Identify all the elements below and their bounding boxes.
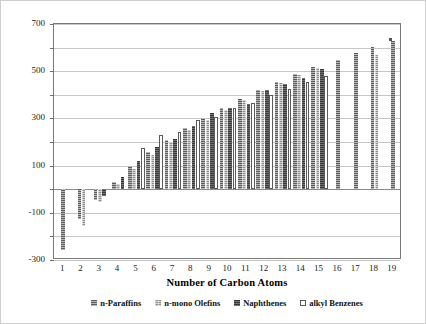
bar-group	[54, 24, 72, 258]
bar	[78, 189, 82, 219]
bar-group	[127, 24, 145, 258]
bar	[251, 103, 255, 190]
legend-label: n-mono Olefins	[164, 298, 220, 308]
bar-group	[109, 24, 127, 258]
x-tick-label: 8	[180, 263, 200, 273]
bar	[283, 84, 287, 189]
legend-swatch-icon	[300, 300, 306, 306]
bar-group	[274, 24, 292, 258]
x-tick-label: 14	[290, 263, 310, 273]
legend-swatch-icon	[155, 300, 161, 306]
bar	[183, 128, 187, 189]
bar	[256, 90, 260, 189]
y-tick-label: 100	[5, 160, 45, 170]
x-tick-label: 10	[217, 263, 237, 273]
y-tick-label: 500	[5, 65, 45, 75]
bar-group	[365, 24, 383, 258]
bar	[265, 90, 269, 189]
y-tick-label: -100	[5, 207, 45, 217]
bar	[320, 69, 324, 189]
bar	[159, 135, 163, 190]
x-tick-label: 3	[89, 263, 109, 273]
bar	[371, 47, 375, 189]
bar-group	[384, 24, 402, 258]
bar	[201, 118, 205, 190]
y-tick-label: -300	[5, 254, 45, 264]
bar	[391, 41, 395, 189]
chart-legend: n-Paraffinsn-mono OlefinsNaphthenesalkyl…	[53, 298, 401, 308]
bar	[375, 55, 379, 190]
bar-group	[292, 24, 310, 258]
legend-label: Naphthenes	[243, 298, 286, 308]
bar	[336, 60, 340, 189]
bar	[82, 189, 86, 226]
bar	[293, 74, 297, 189]
bar	[116, 184, 120, 189]
x-tick-label: 1	[52, 263, 72, 273]
bar	[169, 142, 173, 189]
x-tick-label: 18	[364, 263, 384, 273]
x-axis-title: Number of Carbon Atoms	[53, 277, 401, 288]
bar	[302, 78, 306, 190]
legend-item[interactable]: n-mono Olefins	[155, 298, 220, 308]
bar	[112, 182, 116, 189]
bar	[165, 140, 169, 189]
bar-group	[146, 24, 164, 258]
plot-area	[53, 23, 401, 259]
bar	[214, 117, 218, 189]
bar	[233, 108, 237, 189]
bar	[288, 89, 292, 190]
x-tick-label: 9	[199, 263, 219, 273]
bar	[61, 189, 65, 250]
gridline	[54, 260, 400, 261]
bar-series-container	[54, 24, 400, 258]
bar	[220, 108, 224, 189]
bar	[128, 166, 132, 189]
x-tick-label: 4	[107, 263, 127, 273]
x-tick-label: 17	[345, 263, 365, 273]
bar-group	[329, 24, 347, 258]
bar	[151, 155, 155, 189]
bar	[354, 53, 358, 189]
bar	[261, 91, 265, 189]
y-tick-label: 700	[5, 18, 45, 28]
bar	[196, 120, 200, 189]
bar	[297, 75, 301, 189]
bar	[279, 83, 283, 189]
x-tick-label: 11	[235, 263, 255, 273]
bar	[247, 104, 251, 189]
bar	[306, 82, 310, 189]
bar	[210, 113, 214, 189]
bar	[155, 147, 159, 189]
bar-group	[182, 24, 200, 258]
legend-item[interactable]: Naphthenes	[234, 298, 286, 308]
x-tick-label: 12	[254, 263, 274, 273]
bar-group	[255, 24, 273, 258]
bar-group	[237, 24, 255, 258]
bar-group	[91, 24, 109, 258]
bar	[132, 169, 136, 189]
bar	[173, 139, 177, 190]
bar	[238, 99, 242, 190]
chart-figure: Boiling Point, °F 700500300100-100-300 1…	[0, 0, 426, 324]
bar	[121, 177, 125, 189]
bar-group	[72, 24, 90, 258]
x-tick-label: 15	[309, 263, 329, 273]
legend-item[interactable]: alkyl Benzenes	[300, 298, 363, 308]
bar	[316, 68, 320, 189]
x-tick-label: 5	[125, 263, 145, 273]
y-tick-label: 300	[5, 112, 45, 122]
bar	[141, 148, 145, 190]
bar	[102, 189, 106, 195]
bar	[269, 95, 273, 189]
bar	[311, 67, 315, 189]
bar	[228, 108, 232, 189]
bar	[206, 120, 210, 190]
stray-marker-icon	[389, 38, 392, 41]
x-tick-label: 2	[70, 263, 90, 273]
legend-swatch-icon	[91, 300, 97, 306]
x-tick-label: 6	[144, 263, 164, 273]
legend-item[interactable]: n-Paraffins	[91, 298, 141, 308]
legend-swatch-icon	[234, 300, 240, 306]
bar	[98, 189, 102, 202]
